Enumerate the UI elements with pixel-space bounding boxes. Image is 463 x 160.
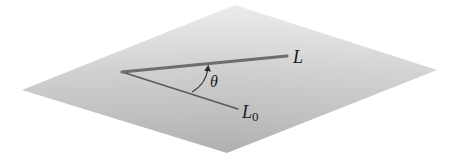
angle-label-theta: θ — [210, 73, 218, 90]
plane-angle-diagram: θ L L0 — [0, 0, 463, 160]
plane-sheen — [22, 5, 437, 153]
line-L-label: L — [292, 47, 303, 67]
line-L0-label-subscript: 0 — [252, 109, 259, 124]
line-L0-label-main: L — [241, 102, 252, 122]
